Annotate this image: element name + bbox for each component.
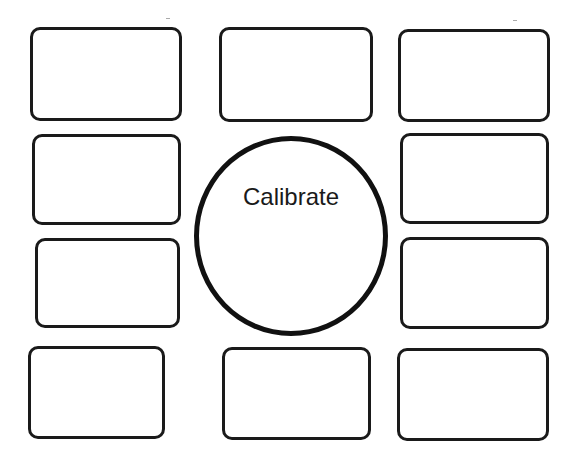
calibrate-label: Calibrate	[199, 183, 383, 211]
box-top-right[interactable]	[398, 29, 550, 122]
box-left-2[interactable]	[32, 134, 181, 225]
box-right-3[interactable]	[400, 237, 549, 329]
box-bottom-middle[interactable]	[222, 347, 371, 440]
box-top-middle[interactable]	[219, 27, 373, 122]
box-bottom-right[interactable]	[397, 348, 549, 441]
scan-speck	[513, 20, 517, 21]
box-top-left[interactable]	[30, 27, 182, 121]
box-bottom-left[interactable]	[28, 346, 165, 439]
scan-speck	[166, 18, 170, 19]
box-left-3[interactable]	[35, 238, 180, 328]
calibrate-circle[interactable]: Calibrate	[194, 136, 388, 336]
box-right-2[interactable]	[400, 133, 549, 224]
